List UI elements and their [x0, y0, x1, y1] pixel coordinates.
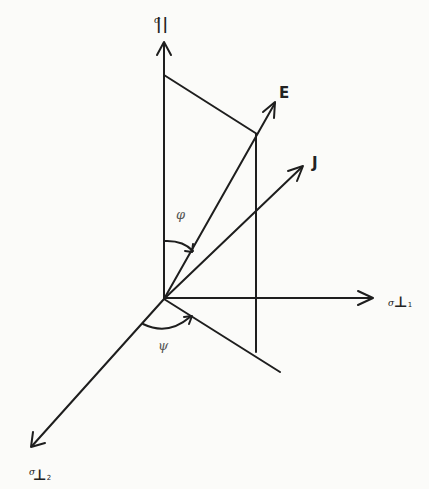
j-vector-line [164, 167, 302, 299]
phi-angle-label: φ [176, 207, 185, 222]
perp2-axis-subscript: ⊥2 [33, 465, 51, 484]
j-vector-label: J [312, 154, 318, 172]
perp2-axis-line [32, 299, 164, 446]
e-vector-line [164, 103, 275, 299]
tensor-axes-diagram [0, 0, 429, 489]
plane-top-edge [164, 75, 257, 134]
e-vector-label: E [279, 84, 289, 102]
phi-angle-arc [164, 241, 193, 251]
psi-angle-label: ψ [158, 338, 168, 353]
parallel-axis-subscript: || [156, 14, 169, 33]
perp1-axis-subscript: ⊥1 [394, 292, 412, 311]
plane-bottom-diagonal [164, 299, 280, 372]
psi-angle-arc [143, 317, 190, 329]
